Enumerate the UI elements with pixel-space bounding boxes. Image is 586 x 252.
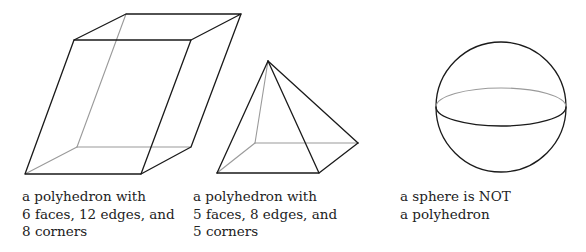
caption-parallelepiped: a polyhedron with 6 faces, 12 edges, and… — [22, 188, 175, 241]
caption-line: a sphere is NOT — [400, 188, 511, 206]
hidden-edge — [217, 143, 255, 173]
right-edges — [141, 14, 241, 174]
equator-back-arc — [436, 88, 566, 107]
sphere-shape — [436, 42, 566, 172]
caption-pyramid: a polyhedron with 5 faces, 8 edges, and … — [193, 188, 337, 241]
lateral-edge — [217, 61, 268, 173]
base-visible-edges — [217, 143, 358, 173]
lateral-edge — [268, 61, 358, 143]
caption-line: 6 faces, 12 edges, and — [22, 206, 175, 224]
equator-front-arc — [436, 107, 566, 126]
caption-line: 5 faces, 8 edges, and — [193, 206, 337, 224]
caption-line: a polyhedron — [400, 206, 511, 224]
lateral-edge — [268, 61, 319, 173]
caption-line: a polyhedron with — [22, 188, 175, 206]
top-edges — [74, 14, 241, 40]
hidden-edge — [255, 61, 268, 143]
caption-line: 5 corners — [193, 223, 337, 241]
caption-sphere: a sphere is NOT a polyhedron — [400, 188, 511, 223]
sphere-outline — [436, 42, 566, 172]
front-face — [25, 40, 191, 174]
hidden-edge — [77, 14, 126, 147]
parallelepiped-shape — [25, 14, 241, 174]
pyramid-shape — [217, 61, 358, 173]
caption-line: a polyhedron with — [193, 188, 337, 206]
caption-line: 8 corners — [22, 223, 175, 241]
